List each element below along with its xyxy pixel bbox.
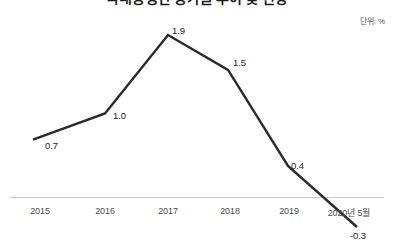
x-axis-label-2016: 2016 (95, 206, 115, 216)
value-label-2018: 1.5 (233, 57, 246, 68)
value-label-2015: 0.7 (45, 140, 58, 151)
value-label-2020-05: -0.3 (350, 230, 366, 241)
x-axis-label-2020-05: 2020년 5월 (328, 206, 371, 219)
x-axis-label-2017: 2017 (158, 206, 178, 216)
value-label-2017: 1.9 (172, 25, 185, 36)
data-series-line (33, 35, 357, 227)
value-label-2019: 0.4 (291, 160, 304, 171)
x-axis-label-2015: 2015 (30, 206, 50, 216)
x-axis-label-2019: 2019 (279, 206, 299, 216)
chart-container: 국내총생산 증가율 추이 및 전망 단위: % 0.7 1.0 1.9 1.5 … (0, 0, 394, 251)
x-axis-label-2018: 2018 (220, 206, 240, 216)
value-label-2016: 1.0 (113, 110, 126, 121)
